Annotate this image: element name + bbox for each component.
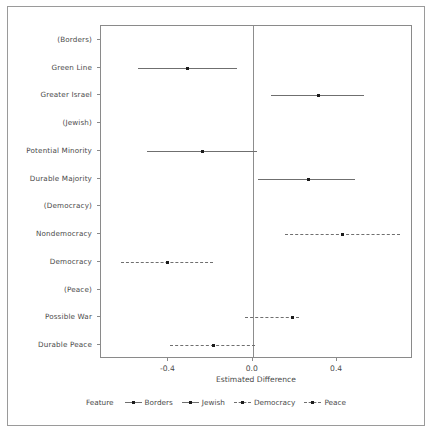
legend-entry-label: Jewish [202, 398, 225, 407]
estimate-row [101, 345, 411, 346]
x-tick-label: 0.0 [246, 364, 258, 373]
legend-entry[interactable]: Jewish [182, 398, 225, 407]
x-tick-mark [336, 358, 337, 361]
estimate-row [101, 151, 411, 152]
y-tick-label: Durable Peace [38, 340, 92, 349]
estimate-point [212, 344, 215, 347]
legend-entry[interactable]: Peace [304, 398, 346, 407]
estimate-row [101, 95, 411, 96]
y-tick-label: Durable Majority [30, 173, 92, 182]
legend-entry[interactable]: Borders [125, 398, 173, 407]
legend-entry-label: Democracy [254, 398, 296, 407]
estimate-point [291, 316, 294, 319]
estimate-point [317, 94, 320, 97]
estimate-point [166, 261, 169, 264]
estimate-point [307, 178, 310, 181]
y-tick-label: Possible War [45, 312, 92, 321]
legend-entry-label: Borders [145, 398, 173, 407]
x-tick-mark [252, 358, 253, 361]
legend-title: Feature [86, 398, 114, 407]
legend-key-icon [182, 399, 199, 406]
legend-key-icon [304, 399, 321, 406]
y-tick-label: Greater Israel [41, 90, 92, 99]
estimate-row [101, 234, 411, 235]
estimate-row [101, 317, 411, 318]
y-axis: (Borders)Green LineGreater Israel(Jewish… [0, 25, 100, 358]
x-axis-title: Estimated Difference [100, 375, 412, 384]
x-tick-label: -0.4 [160, 364, 175, 373]
zero-reference-line [253, 26, 254, 357]
estimate-point [341, 233, 344, 236]
plot-area [101, 26, 411, 357]
y-tick-label: Nondemocracy [36, 229, 92, 238]
legend-key-icon [234, 399, 251, 406]
plot-panel [100, 25, 412, 358]
y-tick-label: Potential Minority [26, 145, 92, 154]
estimate-row [101, 68, 411, 69]
legend: Feature BordersJewishDemocracyPeace [7, 393, 425, 411]
legend-entry-label: Peace [324, 398, 346, 407]
estimate-row [101, 179, 411, 180]
y-tick-label: Democracy [50, 256, 92, 265]
estimate-point [186, 67, 189, 70]
legend-entry[interactable]: Democracy [234, 398, 296, 407]
x-tick-mark [167, 358, 168, 361]
estimate-point [201, 150, 204, 153]
y-tick-label: (Jewish) [62, 118, 92, 127]
legend-key-icon [125, 399, 142, 406]
figure: (Borders)Green LineGreater Israel(Jewish… [0, 0, 434, 434]
y-tick-label: Green Line [51, 62, 92, 71]
y-tick-label: (Peace) [64, 284, 92, 293]
y-tick-label: (Democracy) [44, 201, 92, 210]
y-tick-label: (Borders) [57, 34, 92, 43]
x-tick-label: 0.4 [330, 364, 342, 373]
estimate-row [101, 262, 411, 263]
